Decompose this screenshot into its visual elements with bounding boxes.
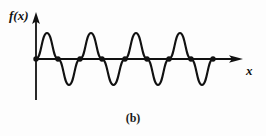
- zero-crossing-dot: [99, 56, 104, 61]
- zero-crossing-dot: [55, 56, 60, 61]
- zero-crossing-dot: [210, 56, 215, 61]
- zero-crossing-dot: [33, 56, 38, 61]
- zero-crossing-dot: [77, 56, 82, 61]
- zero-crossing-dot: [166, 56, 171, 61]
- y-axis-label: f(x): [9, 9, 29, 22]
- zero-crossing-dot: [144, 56, 149, 61]
- figure-caption: (b): [0, 112, 266, 124]
- axes-group: [32, 12, 243, 100]
- zero-crossing-dot: [188, 56, 193, 61]
- x-axis-label: x: [246, 64, 253, 77]
- zero-crossing-dot: [122, 56, 127, 61]
- figure-container: f(x) x (b): [0, 0, 266, 136]
